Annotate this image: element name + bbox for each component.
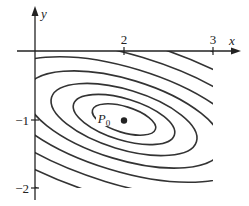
contour-lines	[0, 0, 249, 206]
point-p0	[121, 117, 127, 123]
y-axis-label: y	[39, 6, 47, 21]
contour-plot: 2 3 x y −1 −2 P0	[0, 0, 249, 206]
x-axis-label: x	[228, 33, 235, 48]
y-axis-arrow-icon	[32, 6, 39, 16]
x-axis-arrow-icon	[231, 48, 241, 55]
y-tick-label-minus1: −1	[15, 113, 29, 128]
x-tick-label-2: 2	[121, 32, 128, 47]
y-tick-label-minus2: −2	[15, 181, 29, 196]
x-tick-label-3: 3	[210, 32, 217, 47]
